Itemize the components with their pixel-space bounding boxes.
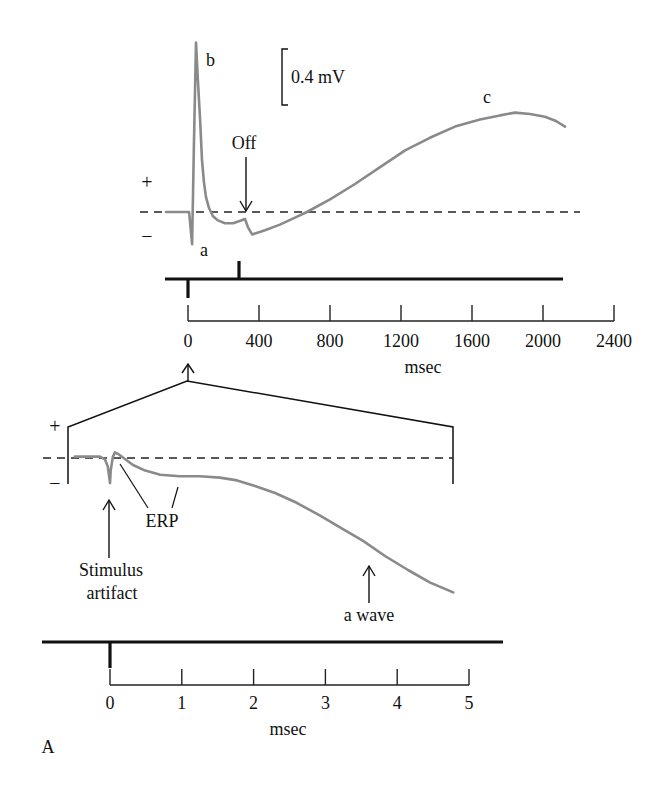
x-tick-label: 2	[249, 693, 258, 713]
erp-label: ERP	[145, 511, 178, 531]
bottom-plus-sign: +	[49, 415, 60, 437]
x-tick-label: 800	[317, 331, 344, 351]
bottom-plot: + − ERP Stimulus artifact a wave 012345 …	[42, 415, 503, 739]
top-x-axis: 04008001200160020002400	[184, 305, 633, 351]
x-tick-label: 3	[321, 693, 330, 713]
off-arrow-icon	[240, 157, 252, 211]
x-tick-label: 0	[106, 693, 115, 713]
wave-a-label: a	[200, 240, 208, 260]
x-tick-label: 0	[184, 331, 193, 351]
bottom-stimulus-marker	[42, 642, 503, 668]
top-stimulus-marker	[165, 261, 563, 298]
x-tick-label: 2000	[525, 331, 561, 351]
bottom-minus-sign: −	[49, 472, 60, 494]
bottom-x-axis: 012345	[106, 669, 474, 713]
stimulus-artifact-arrow-icon	[103, 500, 115, 558]
bottom-x-axis-unit: msec	[270, 719, 307, 739]
erg-figure: + − b a c 0.4 mV Off 0400800120016002000…	[0, 0, 664, 790]
x-tick-label: 400	[246, 331, 273, 351]
x-tick-label: 1200	[383, 331, 419, 351]
expansion-connector	[68, 364, 453, 484]
up-arrow-icon	[182, 364, 194, 381]
scale-bar-bracket	[282, 49, 288, 105]
x-tick-label: 1	[177, 693, 186, 713]
scale-bar-label: 0.4 mV	[291, 67, 345, 87]
top-plot: + − b a c 0.4 mV Off 0400800120016002000…	[140, 43, 632, 377]
a-wave-label: a wave	[344, 605, 394, 625]
x-tick-label: 4	[393, 693, 402, 713]
wave-c-label: c	[483, 87, 491, 107]
off-label: Off	[232, 133, 257, 153]
top-plus-sign: +	[141, 171, 152, 193]
stimulus-label-line2: artifact	[87, 583, 138, 603]
top-erg-trace	[166, 43, 565, 245]
x-tick-label: 1600	[454, 331, 490, 351]
panel-label: A	[42, 737, 55, 757]
x-tick-label: 2400	[596, 331, 632, 351]
top-minus-sign: −	[141, 225, 152, 247]
stimulus-label-line1: Stimulus	[79, 560, 143, 580]
a-wave-arrow-icon	[363, 566, 375, 603]
x-tick-label: 5	[465, 693, 474, 713]
top-x-axis-unit: msec	[405, 357, 442, 377]
wave-b-label: b	[206, 50, 215, 70]
